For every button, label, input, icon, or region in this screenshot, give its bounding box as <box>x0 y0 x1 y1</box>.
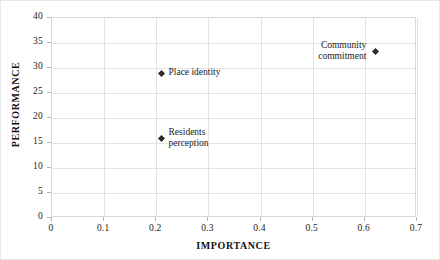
y-tick-mark <box>47 17 51 18</box>
x-tick-label: 0.1 <box>83 223 123 233</box>
y-tick-label: 25 <box>15 86 43 96</box>
x-tick-label: 0 <box>31 223 71 233</box>
gridline-vertical <box>208 18 209 216</box>
y-tick-mark <box>47 92 51 93</box>
y-axis-title: PERFORMANCE <box>10 5 21 205</box>
x-tick-mark <box>155 217 156 221</box>
y-tick-mark <box>47 117 51 118</box>
gridline-vertical <box>261 18 262 216</box>
y-tick-mark <box>47 217 51 218</box>
gridline-vertical <box>104 18 105 216</box>
y-tick-label: 35 <box>15 36 43 46</box>
x-tick-mark <box>51 217 52 221</box>
x-tick-mark <box>260 217 261 221</box>
y-tick-label: 15 <box>15 136 43 146</box>
x-tick-label: 0.6 <box>344 223 384 233</box>
y-tick-mark <box>47 42 51 43</box>
x-tick-label: 0.2 <box>135 223 175 233</box>
data-point-marker <box>158 134 165 141</box>
y-tick-label: 5 <box>15 186 43 196</box>
x-tick-label: 0.7 <box>396 223 436 233</box>
plot-area: Place identityResidents perceptionCommun… <box>51 17 416 217</box>
x-tick-label: 0.5 <box>292 223 332 233</box>
data-point-label: Community commitment <box>318 40 366 62</box>
gridline-vertical <box>156 18 157 216</box>
y-tick-mark <box>47 142 51 143</box>
data-point-label: Place identity <box>169 67 221 78</box>
gridline-horizontal <box>52 68 415 69</box>
data-point-marker <box>158 69 165 76</box>
y-tick-label: 30 <box>15 61 43 71</box>
gridline-horizontal <box>52 168 415 169</box>
scatter-chart-figure: Place identityResidents perceptionCommun… <box>0 0 440 260</box>
gridline-horizontal <box>52 93 415 94</box>
x-tick-mark <box>207 217 208 221</box>
gridline-horizontal <box>52 193 415 194</box>
x-tick-mark <box>364 217 365 221</box>
y-tick-label: 40 <box>15 11 43 21</box>
data-point-label: Residents perception <box>169 127 209 149</box>
gridline-horizontal <box>52 143 415 144</box>
x-tick-mark <box>312 217 313 221</box>
x-tick-label: 0.3 <box>187 223 227 233</box>
data-point-marker <box>372 47 379 54</box>
x-tick-label: 0.4 <box>240 223 280 233</box>
y-tick-mark <box>47 67 51 68</box>
gridline-horizontal <box>52 118 415 119</box>
y-tick-label: 10 <box>15 161 43 171</box>
x-axis-title: IMPORTANCE <box>51 240 416 251</box>
y-tick-label: 0 <box>15 211 43 221</box>
gridline-vertical <box>417 18 418 216</box>
x-tick-mark <box>103 217 104 221</box>
y-tick-mark <box>47 192 51 193</box>
gridline-vertical <box>313 18 314 216</box>
y-tick-mark <box>47 167 51 168</box>
x-tick-mark <box>416 217 417 221</box>
y-tick-label: 20 <box>15 111 43 121</box>
